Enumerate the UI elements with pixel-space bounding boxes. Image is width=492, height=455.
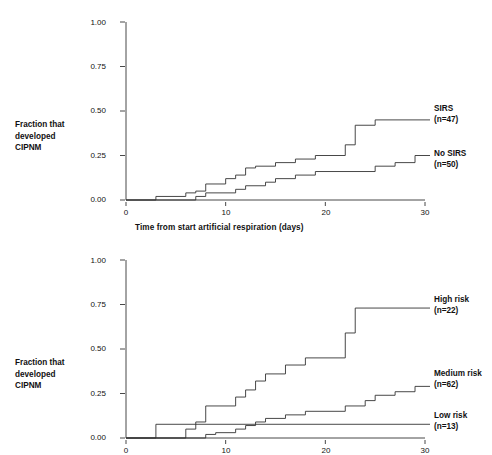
series-line-sirs <box>126 120 425 200</box>
plot-area-bottom <box>0 238 492 455</box>
series-line-medium-risk <box>126 386 425 438</box>
plot-area-top <box>0 0 492 240</box>
chart-panel-bottom: 1.00 0.75 0.50 0.25 0.00 Fraction thatde… <box>0 238 492 455</box>
figure-root: 1.00 0.75 0.50 0.25 0.00 Fraction thatde… <box>0 0 492 455</box>
chart-panel-top: 1.00 0.75 0.50 0.25 0.00 Fraction thatde… <box>0 0 492 240</box>
series-line-low-risk <box>126 424 425 438</box>
